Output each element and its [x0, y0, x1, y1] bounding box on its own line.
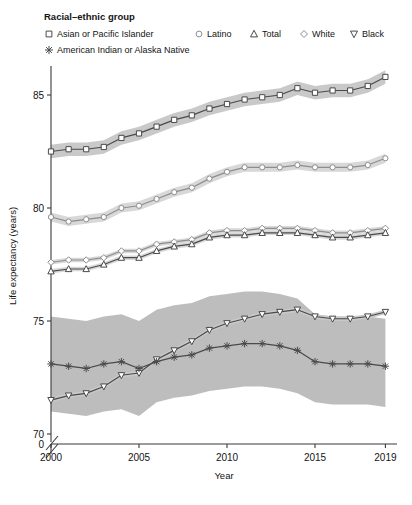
legend-item-label: Latino	[207, 29, 232, 39]
legend-item[interactable]: Total	[251, 29, 282, 39]
legend-item-label: White	[312, 29, 335, 39]
y-axis-title: Life expectancy (years)	[7, 207, 18, 305]
x-tick-label: 2015	[304, 452, 327, 463]
y-tick-label: 75	[33, 316, 45, 327]
x-axis-title: Year	[214, 470, 233, 481]
legend-item[interactable]: American Indian or Alaska Native	[45, 45, 190, 55]
legend-item-label: American Indian or Alaska Native	[57, 45, 190, 55]
x-tick-label: 2000	[40, 452, 63, 463]
y-tick-label: 85	[33, 90, 45, 101]
legend-item-label: Black	[362, 29, 385, 39]
line-chart: Racial–ethnic groupAsian or Pacific Isla…	[0, 0, 412, 505]
legend-item[interactable]: White	[301, 29, 336, 39]
x-tick-label: 2019	[374, 452, 397, 463]
x-tick-label: 2005	[128, 452, 151, 463]
legend-item-label: Asian or Pacific Islander	[57, 29, 154, 39]
life-expectancy-figure: Racial–ethnic groupAsian or Pacific Isla…	[0, 0, 412, 505]
legend-item[interactable]: Black	[351, 29, 385, 39]
legend-title: Racial–ethnic group	[44, 11, 135, 22]
y-zero-label: 0	[38, 439, 44, 450]
confidence-band	[51, 292, 385, 416]
legend-item-label: Total	[262, 29, 281, 39]
confidence-band	[51, 154, 385, 226]
legend-item[interactable]: Asian or Pacific Islander	[46, 29, 153, 39]
y-tick-label: 80	[33, 203, 45, 214]
x-tick-label: 2010	[216, 452, 239, 463]
legend-item[interactable]: Latino	[196, 29, 231, 39]
legend: Racial–ethnic groupAsian or Pacific Isla…	[44, 11, 385, 55]
